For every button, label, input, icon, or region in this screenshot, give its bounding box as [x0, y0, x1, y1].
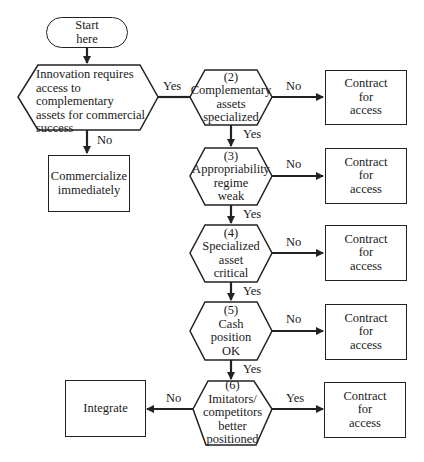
decision-4-number: (4): [224, 227, 239, 241]
decision-2-number: (2): [224, 71, 239, 85]
contract-line-1: Contract: [344, 156, 387, 170]
decision-3: (3) Appropriability regime weak: [190, 148, 272, 205]
contract-node-5: Contract for access: [325, 304, 407, 360]
contract-line-3: access: [349, 417, 381, 431]
contract-line-3: access: [350, 260, 382, 274]
edge-label-d3-yes: Yes: [243, 208, 261, 221]
edge-label-d6-yes: Yes: [286, 392, 304, 405]
decision-6-line-4: positioned: [206, 433, 258, 447]
contract-node-3: Contract for access: [325, 148, 407, 204]
contract-line-3: access: [350, 339, 382, 353]
edge-label-d1-no: No: [97, 134, 112, 147]
decision-3-number: (3): [224, 150, 239, 164]
decision-4-line-3: critical: [214, 267, 249, 281]
integrate-label: Integrate: [83, 402, 127, 416]
contract-line-2: for: [358, 403, 373, 417]
edge-label-d1-yes: Yes: [163, 80, 181, 93]
start-label-1: Start: [75, 19, 99, 33]
contract-node-4: Contract for access: [325, 225, 407, 281]
contract-line-1: Contract: [344, 233, 387, 247]
decision-6-line-2: competitors: [203, 406, 262, 420]
decision-3-line-1: Appropriability: [192, 163, 270, 177]
decision-5-number: (5): [224, 304, 239, 318]
decision-5-line-2: position: [211, 331, 251, 345]
contract-line-2: for: [359, 169, 374, 183]
edge-label-d2-no: No: [286, 80, 301, 93]
decision-2-line-3: specialized: [203, 111, 259, 125]
edge-label-d2-yes: Yes: [243, 128, 261, 141]
decision-2: (2) Complementary assets specialized: [190, 70, 272, 125]
decision-4: (4) Specialized asset critical: [190, 225, 272, 282]
decision-3-line-3: weak: [218, 190, 244, 204]
decision-1-line-2: access to complementary: [36, 82, 158, 109]
start-node: Start here: [46, 17, 128, 48]
contract-line-1: Contract: [344, 77, 387, 91]
decision-4-line-1: Specialized: [202, 240, 260, 254]
decision-3-line-2: regime: [214, 177, 249, 191]
edge-label-d3-no: No: [286, 158, 301, 171]
contract-line-1: Contract: [344, 312, 387, 326]
edge-label-d4-yes: Yes: [243, 285, 261, 298]
start-label-2: here: [76, 33, 98, 47]
edge-label-d5-yes: Yes: [243, 363, 261, 376]
commercialize-line-2: immediately: [58, 184, 120, 198]
decision-6-line-1: Imitators/: [208, 393, 257, 407]
decision-2-line-2: assets: [216, 98, 245, 112]
contract-line-2: for: [359, 325, 374, 339]
commercialize-node: Commercialize immediately: [48, 155, 130, 212]
decision-1-line-4: success: [36, 122, 74, 136]
decision-1: Innovation requires access to complement…: [36, 68, 158, 128]
decision-5-line-1: Cash: [219, 318, 244, 332]
decision-5: (5) Cash position OK: [190, 302, 272, 360]
edge-label-d6-no: No: [166, 392, 181, 405]
contract-line-2: for: [359, 246, 374, 260]
decision-6: (6) Imitators/ competitors better positi…: [193, 381, 272, 445]
edge-label-d4-no: No: [286, 236, 301, 249]
decision-6-line-3: better: [218, 420, 246, 434]
contract-node-2: Contract for access: [325, 70, 407, 125]
decision-4-line-2: asset: [219, 254, 243, 268]
decision-6-number: (6): [225, 379, 240, 393]
contract-line-1: Contract: [343, 390, 386, 404]
contract-line-2: for: [359, 91, 374, 105]
decision-1-line-3: assets for commercial: [36, 109, 145, 123]
commercialize-line-1: Commercialize: [51, 170, 127, 184]
edge-label-d5-no: No: [286, 313, 301, 326]
integrate-node: Integrate: [65, 380, 146, 437]
contract-node-6: Contract for access: [324, 382, 406, 438]
decision-5-line-3: OK: [222, 345, 240, 359]
decision-2-line-1: Complementary: [191, 84, 272, 98]
contract-line-3: access: [350, 183, 382, 197]
decision-1-line-1: Innovation requires: [36, 68, 134, 82]
contract-line-3: access: [350, 104, 382, 118]
